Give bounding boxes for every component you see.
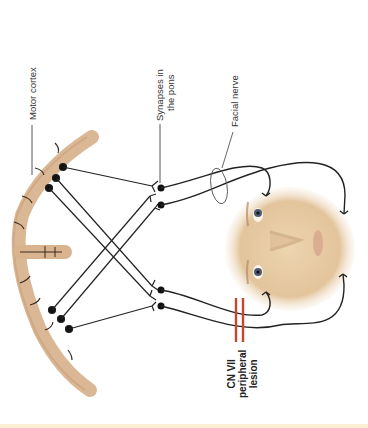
diagram-canvas [0, 0, 368, 428]
facial-nerve-label: Facial nerve [229, 75, 240, 127]
synapses-label: Synapses in the pons [154, 69, 176, 121]
motor-cortex-label: Motor cortex [27, 67, 38, 120]
face-illustration [225, 187, 355, 311]
facial-nerve-pathway-diagram: Motor cortex Synapses in the pons Facial… [0, 0, 368, 428]
lesion-label: CN VII peripheral lesion [226, 350, 259, 398]
motor-cortex [14, 137, 92, 390]
lesion-marker [236, 298, 243, 342]
facial-nerve-leader [222, 132, 233, 168]
bottom-band [0, 424, 368, 428]
